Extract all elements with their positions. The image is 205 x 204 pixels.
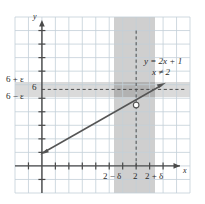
x-label-lower: 2 − δ [103,172,121,181]
y-label-value: 6 [32,83,37,92]
x-axis-label: x [183,167,187,175]
restriction-label: x ≠ 2 [152,68,170,77]
y-label-upper: 6 + ε [6,75,24,84]
limit-epsilon-delta-graph: y x 6 + ε 6 6 − ε 2 − δ 2 2 + δ y = 2x +… [0,0,205,204]
x-label-value: 2 [133,172,138,181]
y-label-lower: 6 − ε [6,92,24,101]
open-circle-hole [133,102,139,108]
equation-label: y = 2x + 1 [144,57,182,66]
x-label-upper: 2 + δ [145,172,163,181]
y-axis-label: y [33,13,37,21]
